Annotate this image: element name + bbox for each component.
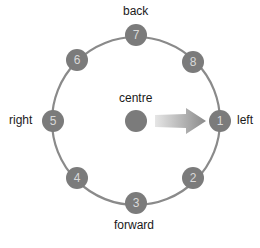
centre-label: centre (119, 91, 152, 105)
centre-node (125, 110, 147, 132)
left-label: left (237, 113, 253, 127)
node-6-label: 6 (66, 49, 88, 71)
forward-label: forward (114, 218, 154, 232)
right-label: right (9, 113, 32, 127)
node-8-label: 8 (182, 51, 204, 73)
node-1-label: 1 (209, 110, 231, 132)
node-2-label: 2 (182, 167, 204, 189)
back-label: back (123, 4, 148, 18)
arrow-icon (155, 108, 206, 134)
node-3-label: 3 (125, 192, 147, 214)
node-4-label: 4 (66, 167, 88, 189)
node-5-label: 5 (42, 110, 64, 132)
node-7-label: 7 (125, 24, 147, 46)
